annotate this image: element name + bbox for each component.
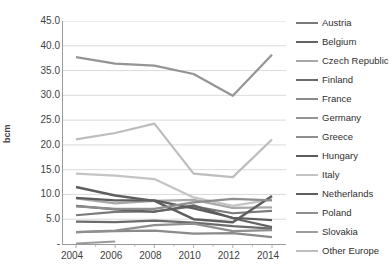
legend-item-belgium[interactable]: Belgium xyxy=(296,33,356,51)
legend-item-austria[interactable]: Austria xyxy=(296,14,352,32)
legend-item-poland[interactable]: Poland xyxy=(296,204,352,222)
legend-line-icon xyxy=(296,174,318,176)
legend-line-icon xyxy=(296,193,318,195)
legend-line-icon xyxy=(296,155,318,157)
legend-item-other-europe[interactable]: Other Europe xyxy=(296,242,379,260)
legend-line-icon xyxy=(296,60,318,62)
legend-item-slovakia[interactable]: Slovakia xyxy=(296,223,358,241)
legend-item-france[interactable]: France xyxy=(296,90,352,108)
legend-item-label: Hungary xyxy=(322,151,358,161)
x-tick-label: 2014 xyxy=(248,250,288,262)
plot-svg xyxy=(62,21,286,250)
legend-line-icon xyxy=(296,231,318,233)
plot-area xyxy=(62,21,286,244)
chart-legend: AustriaBelgiumCzech RepublicFinlandFranc… xyxy=(296,14,391,262)
y-tick-label: 30.0 xyxy=(16,90,60,100)
x-tick-label: 2008 xyxy=(130,250,170,262)
legend-item-label: Greece xyxy=(322,132,353,142)
legend-line-icon xyxy=(296,250,318,252)
legend-item-label: Slovakia xyxy=(322,227,358,237)
y-tick-label: 25.0 xyxy=(16,115,60,125)
x-tick-label: 2010 xyxy=(170,250,210,262)
series-line xyxy=(76,242,115,244)
x-tick-label: 2006 xyxy=(91,250,131,262)
legend-item-label: Czech Republic xyxy=(322,56,389,66)
series-line xyxy=(76,124,272,178)
legend-item-netherlands[interactable]: Netherlands xyxy=(296,185,373,203)
legend-item-label: Italy xyxy=(322,170,339,180)
y-tick-label: 5.0 xyxy=(16,214,60,224)
legend-item-finland[interactable]: Finland xyxy=(296,71,353,89)
legend-item-label: Germany xyxy=(322,113,361,123)
legend-item-greece[interactable]: Greece xyxy=(296,128,353,146)
y-tick-label: 10.0 xyxy=(16,189,60,199)
legend-item-label: Other Europe xyxy=(322,246,379,256)
legend-line-icon xyxy=(296,98,318,100)
legend-item-label: Netherlands xyxy=(322,189,373,199)
legend-line-icon xyxy=(296,117,318,119)
legend-item-label: Austria xyxy=(322,18,352,28)
y-tick-label: 20.0 xyxy=(16,140,60,150)
x-tick-label: 2004 xyxy=(52,250,92,262)
legend-line-icon xyxy=(296,22,318,24)
y-axis-tick-labels: 45.040.035.030.025.020.015.010.05.0- xyxy=(14,0,60,268)
x-tick-label: 2012 xyxy=(209,250,249,262)
legend-item-italy[interactable]: Italy xyxy=(296,166,339,184)
legend-item-label: Poland xyxy=(322,208,352,218)
y-tick-label: 40.0 xyxy=(16,41,60,51)
legend-line-icon xyxy=(296,212,318,214)
legend-line-icon xyxy=(296,136,318,138)
series-line xyxy=(76,224,272,232)
y-tick-label: - xyxy=(16,239,60,249)
legend-item-hungary[interactable]: Hungary xyxy=(296,147,358,165)
y-tick-label: 35.0 xyxy=(16,66,60,76)
legend-item-label: Belgium xyxy=(322,37,356,47)
series-line xyxy=(76,55,272,96)
legend-item-czech-republic[interactable]: Czech Republic xyxy=(296,52,389,70)
legend-item-label: Finland xyxy=(322,75,353,85)
legend-item-germany[interactable]: Germany xyxy=(296,109,361,127)
y-tick-label: 15.0 xyxy=(16,165,60,175)
x-axis-tick-labels: 200420062008201020122014 xyxy=(60,248,286,266)
legend-item-label: France xyxy=(322,94,352,104)
legend-line-icon xyxy=(296,79,318,81)
legend-line-icon xyxy=(296,41,318,43)
line-chart: bcm 45.040.035.030.025.020.015.010.05.0-… xyxy=(0,0,391,268)
y-tick-label: 45.0 xyxy=(16,16,60,26)
